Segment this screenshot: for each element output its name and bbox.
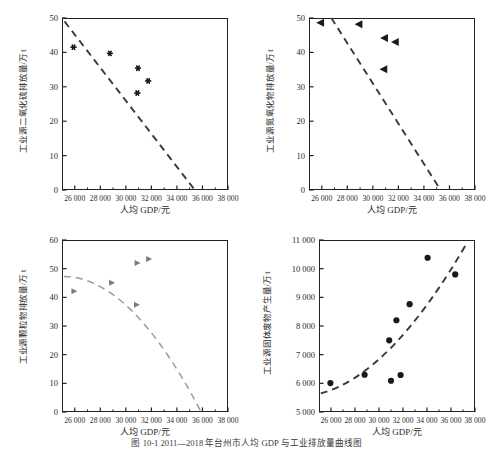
y-axis-label: 工业源颗粒物排放量/万 t (16, 232, 30, 402)
y-tick-label: 11 000 (292, 236, 315, 245)
y-tick-label: 6 000 (296, 379, 315, 388)
x-tick-label: 28 000 (345, 417, 366, 425)
x-axis-label: 人均 GDP/元 (309, 205, 475, 215)
x-tick-label: 32 000 (141, 195, 162, 203)
trend-line (321, 241, 468, 393)
y-tick-label: 40 (297, 48, 306, 57)
chart-panel-bottom-right: 工业源固体废物产生量/万 t 5 0006 0007 0008 0009 000… (247, 222, 493, 437)
plot-area-bottom-right: 5 0006 0007 0008 0009 00010 00011 00026 … (319, 240, 475, 412)
x-tick-label: 26 000 (64, 417, 85, 425)
y-axis-label: 工业源固体废物产生量/万 t (260, 238, 274, 408)
y-tick-label: 50 (297, 14, 306, 23)
x-tick-label: 32 000 (141, 417, 162, 425)
x-tick-label: 30 000 (115, 417, 136, 425)
y-tick-label: 20 (297, 117, 306, 126)
data-point (452, 271, 458, 277)
y-tick-label: 30 (297, 83, 306, 92)
data-point (327, 380, 333, 386)
plot-svg-top-right (309, 18, 475, 190)
figure-root: 工业源二氧化硫排放量/万 t 0102030405026 00028 00030… (0, 0, 493, 457)
data-point (145, 78, 151, 83)
y-tick-label: 20 (50, 350, 59, 359)
x-tick-label: 38 000 (218, 417, 239, 425)
x-tick-label: 36 000 (439, 195, 460, 203)
plot-area-bottom-left: 010203040506026 00028 00030 00032 00034 … (62, 240, 228, 412)
chart-panel-top-left: 工业源二氧化硫排放量/万 t 0102030405026 00028 00030… (0, 0, 246, 215)
data-point (109, 280, 115, 286)
data-point (391, 38, 399, 46)
y-tick-label: 20 (50, 117, 59, 126)
chart-panel-top-right: 工业源氮氧化物排放量/万 t 0102030405026 00028 00030… (247, 0, 493, 215)
y-axis-label: 工业源二氧化硫排放量/万 t (16, 16, 30, 186)
y-tick-label: 10 000 (292, 264, 315, 273)
data-point (70, 45, 76, 50)
x-axis-label: 人均 GDP/元 (62, 205, 228, 215)
data-point (380, 65, 388, 73)
x-tick-label: 32 000 (393, 417, 414, 425)
data-point (380, 34, 388, 42)
trend-line (331, 18, 440, 190)
x-axis-label: 人均 GDP/元 (319, 427, 475, 437)
data-point (407, 301, 413, 307)
plot-svg-bottom-right (319, 240, 475, 412)
data-point (107, 51, 113, 56)
data-point (386, 337, 392, 343)
data-point (71, 288, 77, 294)
x-tick-label: 34 000 (417, 417, 438, 425)
y-tick-label: 40 (50, 293, 59, 302)
y-tick-label: 10 (50, 151, 59, 160)
figure-caption: 图 10-1 2011—2018 年台州市人均 GDP 与工业排放量曲线图 (0, 438, 493, 449)
data-point (135, 66, 141, 71)
y-tick-label: 50 (50, 264, 59, 273)
y-tick-label: 40 (50, 48, 59, 57)
x-tick-label: 36 000 (192, 195, 213, 203)
trend-line (64, 276, 201, 412)
x-tick-label: 26 000 (321, 417, 342, 425)
x-tick-label: 38 000 (465, 417, 486, 425)
y-tick-label: 5 000 (296, 408, 315, 417)
y-tick-label: 0 (54, 408, 58, 417)
y-tick-label: 30 (50, 322, 59, 331)
y-tick-label: 8 000 (296, 322, 315, 331)
plot-svg-bottom-left (62, 240, 228, 412)
plot-area-top-left: 0102030405026 00028 00030 00032 00034 00… (62, 18, 228, 190)
x-tick-label: 34 000 (413, 195, 434, 203)
x-tick-label: 28 000 (90, 195, 111, 203)
y-axis-label: 工业源氮氧化物排放量/万 t (263, 16, 277, 186)
x-tick-label: 36 000 (192, 417, 213, 425)
data-point (135, 260, 141, 266)
x-axis-label: 人均 GDP/元 (62, 427, 228, 437)
y-tick-label: 30 (50, 83, 59, 92)
data-point (146, 256, 152, 262)
y-tick-label: 0 (301, 186, 305, 195)
y-tick-label: 10 (297, 151, 306, 160)
y-tick-label: 50 (50, 14, 59, 23)
x-tick-label: 38 000 (218, 195, 239, 203)
x-tick-label: 30 000 (115, 195, 136, 203)
x-tick-label: 32 000 (388, 195, 409, 203)
plot-svg-top-left (62, 18, 228, 190)
y-tick-label: 10 (50, 379, 59, 388)
x-tick-label: 30 000 (362, 195, 383, 203)
data-point (362, 372, 368, 378)
x-tick-label: 34 000 (166, 417, 187, 425)
data-point (134, 302, 140, 308)
data-point (134, 90, 140, 95)
trend-line (65, 21, 195, 190)
chart-panel-bottom-left: 工业源颗粒物排放量/万 t 010203040506026 00028 0003… (0, 222, 246, 437)
data-point (398, 372, 404, 378)
x-tick-label: 26 000 (64, 195, 85, 203)
data-point (316, 19, 324, 27)
y-tick-label: 7 000 (296, 350, 315, 359)
x-tick-label: 36 000 (441, 417, 462, 425)
data-point (425, 255, 431, 261)
plot-area-top-right: 0102030405026 00028 00030 00032 00034 00… (309, 18, 475, 190)
y-tick-label: 0 (54, 186, 58, 195)
x-tick-label: 28 000 (90, 417, 111, 425)
x-tick-label: 26 000 (311, 195, 332, 203)
x-tick-label: 38 000 (465, 195, 486, 203)
x-tick-label: 34 000 (166, 195, 187, 203)
data-point (355, 20, 363, 28)
data-point (388, 378, 394, 384)
y-tick-label: 9 000 (296, 293, 315, 302)
